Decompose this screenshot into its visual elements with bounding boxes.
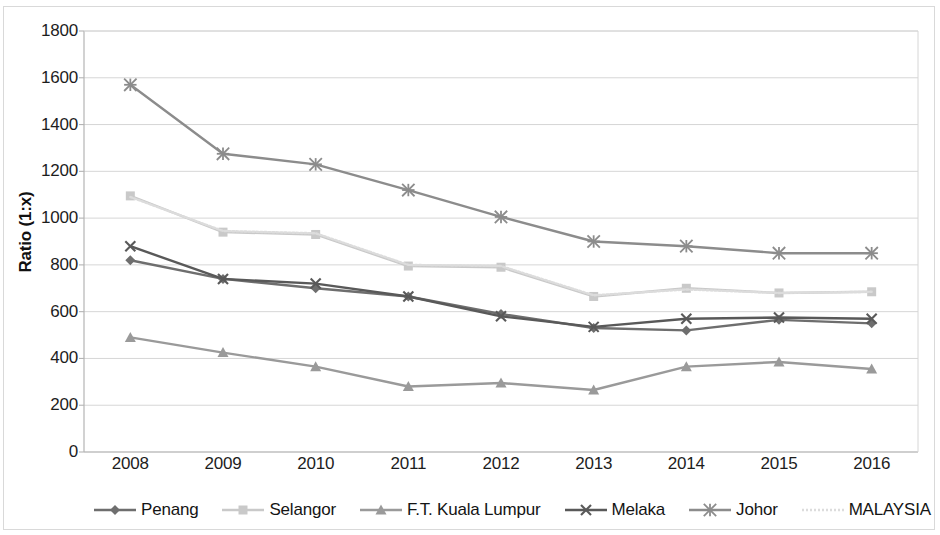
y-tick-label: 400 [20, 349, 78, 366]
legend-item-selangor[interactable]: Selangor [220, 497, 335, 523]
x-tick-label: 2013 [551, 455, 637, 472]
x-tick-label: 2011 [365, 455, 451, 472]
line-plain-marker-icon [800, 500, 846, 520]
legend-item-melaka[interactable]: Melaka [563, 497, 666, 523]
series-selangor [126, 191, 876, 301]
x-tick-label: 2012 [458, 455, 544, 472]
series-line [130, 85, 871, 253]
y-axis-title: Ratio (1:x) [16, 162, 36, 302]
x-tick-label: 2014 [643, 455, 729, 472]
legend-label: MALAYSIA [849, 501, 931, 519]
chart-legend: PenangSelangorF.T. Kuala LumpurMelakaJoh… [92, 497, 892, 523]
line-asterisk-marker-icon [687, 500, 733, 520]
data-point-marker [681, 325, 691, 335]
gridlines [84, 31, 918, 452]
data-point-marker [309, 158, 321, 170]
line-chart: 180016001400120010008006004002000 200820… [0, 0, 940, 535]
x-tick-label: 2009 [180, 455, 266, 472]
data-point-marker [402, 184, 414, 196]
legend-label: Johor [736, 501, 778, 519]
axis-lines [79, 31, 918, 452]
legend-item-johor[interactable]: Johor [687, 497, 778, 523]
data-point-marker [124, 79, 136, 91]
line-square-marker-icon [220, 500, 266, 520]
data-point-marker [110, 505, 120, 515]
y-tick-label: 600 [20, 303, 78, 320]
legend-label: Selangor [269, 501, 335, 519]
data-point-marker [773, 247, 785, 259]
series-f-t-kuala-lumpur [125, 332, 877, 395]
legend-item-penang[interactable]: Penang [92, 497, 198, 523]
data-point-marker [680, 240, 692, 252]
legend-item-f-t-kuala-lumpur[interactable]: F.T. Kuala Lumpur [358, 497, 541, 523]
x-tick-label: 2010 [273, 455, 359, 472]
legend-item-malaysia[interactable]: MALAYSIA [800, 497, 931, 523]
data-point-marker [239, 506, 248, 515]
x-tick-label: 2008 [87, 455, 173, 472]
y-tick-label: 200 [20, 396, 78, 413]
x-tick-label: 2016 [829, 455, 915, 472]
x-tick-label: 2015 [736, 455, 822, 472]
y-tick-label: 1600 [20, 69, 78, 86]
data-point-marker [495, 211, 507, 223]
legend-label: Melaka [612, 501, 666, 519]
legend-label: Penang [141, 501, 198, 519]
line-cross-marker-icon [563, 500, 609, 520]
y-tick-label: 1400 [20, 116, 78, 133]
data-point-marker [865, 247, 877, 259]
data-point-marker [704, 504, 716, 516]
line-triangle-marker-icon [358, 500, 404, 520]
data-point-marker [587, 235, 599, 247]
y-tick-label: 1800 [20, 22, 78, 39]
line-diamond-marker-icon [92, 500, 138, 520]
legend-label: F.T. Kuala Lumpur [407, 501, 541, 519]
y-tick-label: 0 [20, 443, 78, 460]
series-layer [124, 79, 878, 395]
data-point-marker [125, 255, 135, 265]
data-point-marker [217, 148, 229, 160]
